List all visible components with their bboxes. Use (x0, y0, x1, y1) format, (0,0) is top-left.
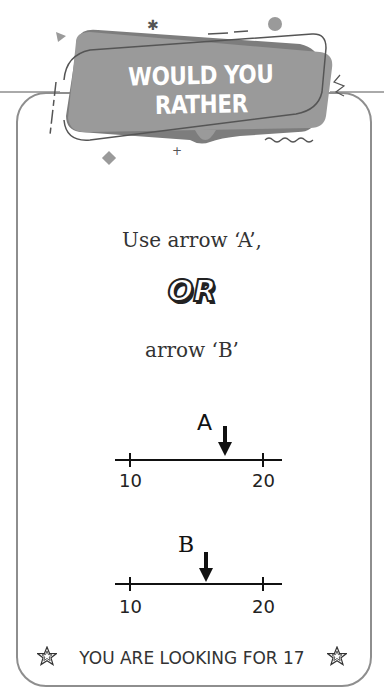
footer-text: YOU ARE LOOKING FOR 17 (79, 648, 304, 668)
or-separator: OR (0, 273, 384, 308)
star-icon (37, 646, 57, 670)
option-b-text: arrow ‘B’ (0, 338, 384, 362)
tick-label-min: 10 (119, 470, 142, 491)
number-line-b: B 10 20 (110, 532, 290, 612)
page-title: WOULD YOU RATHER (102, 59, 301, 121)
svg-text:+: + (172, 144, 182, 158)
option-a-text: Use arrow ‘A’, (0, 228, 384, 252)
arrow-down-icon (110, 532, 290, 592)
footer-hint: YOU ARE LOOKING FOR 17 (0, 646, 384, 670)
arrow-down-icon (110, 410, 290, 470)
tick-label-max: 20 (252, 596, 275, 617)
tick-label-min: 10 (119, 596, 142, 617)
star-icon (327, 646, 347, 670)
tick-label-max: 20 (252, 470, 275, 491)
svg-text:✱: ✱ (147, 17, 159, 33)
number-line-a: A 10 20 (110, 410, 290, 490)
